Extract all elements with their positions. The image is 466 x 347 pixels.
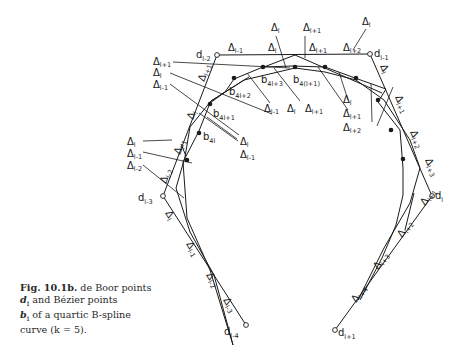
deboor-point-l+1	[333, 328, 338, 333]
caption-text: de Boor points	[77, 282, 151, 293]
leader-line	[173, 62, 290, 68]
control-polygon	[163, 54, 432, 330]
delta-label: Δl-2	[203, 271, 222, 291]
deboor-point-l-1	[368, 52, 373, 57]
leader-line	[170, 73, 272, 114]
label-b-4(l+1): b4(l+1)	[293, 74, 320, 88]
delta-label: Δl	[268, 42, 277, 55]
delta-label: Δl-1	[228, 42, 243, 55]
delta-label: Δl+2	[343, 122, 361, 135]
leader-line	[143, 140, 172, 141]
deboor-point-l-4	[244, 323, 249, 328]
delta-label: Δl	[185, 109, 200, 122]
delta-label: Δl	[271, 22, 280, 35]
caption-text: curve (k = 5).	[20, 324, 87, 335]
bezier-point-4l+8	[389, 128, 394, 133]
label-d-l-2: dl-2	[196, 49, 211, 63]
delta-label: Δl+2	[395, 218, 416, 240]
bezier-point-4l+2	[232, 76, 237, 81]
label-d-l-4: dl-4	[224, 326, 239, 340]
delta-label: Δl-1	[183, 240, 202, 260]
delta-label: Δl	[362, 16, 371, 29]
delta-label: Δl-2	[127, 160, 142, 173]
caption-label: Fig. 10.1b.	[20, 282, 77, 293]
bezier-point-4l+5	[323, 65, 328, 70]
delta-label: Δl+1	[196, 62, 214, 84]
caption-d-symbol: d	[20, 294, 27, 305]
delta-label: Δl+3	[421, 156, 440, 178]
connector-3	[264, 55, 295, 67]
label-b-4l+3: b4l+3	[261, 74, 283, 88]
delta-label: Δl+1	[305, 103, 323, 116]
deboor-point-l-3	[161, 194, 166, 199]
bezier-point-4l+1	[208, 102, 213, 107]
deboor-labels: dl-4 dl-3 dl-2 dl-1 dl dl+1	[138, 48, 443, 341]
delta-label: Δl+1	[391, 93, 410, 115]
label-d-l+1: dl+1	[338, 327, 356, 341]
delta-label: Δl+2	[343, 42, 361, 55]
delta-label: Δl-1	[240, 149, 255, 162]
bezier-point-4l+4	[293, 65, 298, 70]
delta-label: Δl	[162, 209, 178, 223]
caption-text: of a quartic B-spline	[29, 309, 131, 320]
leader-line	[371, 84, 372, 122]
delta-label: Δl	[287, 103, 296, 116]
label-b-4l: b4l	[203, 131, 215, 145]
delta-label: Δl-2	[158, 167, 175, 186]
leader-line	[276, 36, 286, 68]
label-d-l-3: dl-3	[138, 192, 153, 206]
bezier-point-4l	[197, 131, 202, 136]
delta-label: Δl-1	[264, 103, 279, 116]
delta-label: Δl+1	[309, 42, 327, 55]
delta-label: Δl-1	[172, 138, 189, 157]
caption-text: and Bézier points	[29, 294, 117, 305]
bezier-point-4l+6	[354, 76, 359, 81]
delta-label: Δl+1	[303, 22, 321, 35]
bezier-point-4l+7	[376, 98, 381, 103]
caption-b-symbol: b	[20, 309, 27, 320]
label-b-4l+1: b4l+1	[213, 108, 235, 122]
label-d-l-1: dl-1	[374, 48, 389, 62]
bezier-point-4l+9	[401, 157, 406, 162]
delta-label: Δl	[240, 136, 249, 149]
figure-caption: Fig. 10.1b. de Boor points di and Bézier…	[20, 282, 180, 336]
delta-label: Δl+1	[343, 108, 361, 121]
deboor-point-l-2	[215, 53, 220, 58]
delta-label: Δl+2	[406, 128, 425, 150]
delta-label: Δl-1	[153, 79, 168, 92]
leader-line	[377, 87, 393, 126]
